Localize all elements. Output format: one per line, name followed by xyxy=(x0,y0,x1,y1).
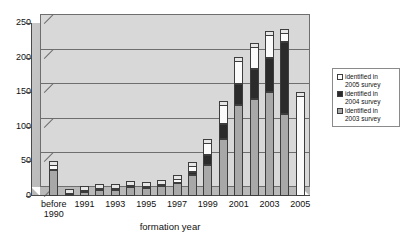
bar-segment xyxy=(280,33,289,42)
bar-column xyxy=(142,14,151,196)
bar-column xyxy=(250,14,259,196)
bar-segment xyxy=(203,165,212,196)
y-axis-tick-mark xyxy=(26,196,31,197)
bar-segment xyxy=(250,99,259,196)
x-axis-tick-label: 2005 xyxy=(280,199,320,209)
bar-segment xyxy=(219,139,228,196)
bar-top-face xyxy=(49,161,58,166)
bar-column xyxy=(80,14,89,196)
bar-segment xyxy=(188,172,197,175)
bar-segment xyxy=(157,186,166,196)
bar-column xyxy=(265,14,274,196)
bar-segment xyxy=(219,124,228,139)
y-axis-tick-mark xyxy=(26,92,31,93)
bar-segment xyxy=(250,69,259,99)
y-axis-tick-mark xyxy=(26,127,31,128)
legend-item-2005: identified in2005 survey xyxy=(337,73,396,88)
bar-segment xyxy=(188,166,197,173)
bar-column xyxy=(203,14,212,196)
bar-top-face xyxy=(203,139,212,144)
y-axis-tick-mark xyxy=(26,161,31,162)
bar-segment xyxy=(296,96,305,196)
bar-segment xyxy=(280,114,289,196)
bar-top-face xyxy=(126,181,135,186)
legend-item-2003: identified in2003 survey xyxy=(337,107,396,122)
bar-top-face xyxy=(173,175,182,180)
bar-top-face xyxy=(296,92,305,97)
bar-column xyxy=(234,14,243,196)
y-axis-tick-mark xyxy=(26,23,31,24)
stacked-column-chart: 050100150200250 before199019911993199519… xyxy=(0,0,407,250)
bar-segment xyxy=(265,58,274,93)
bar-segment xyxy=(203,155,212,165)
bar-segment xyxy=(280,42,289,115)
bar-segment xyxy=(173,183,182,196)
bar-segment xyxy=(142,188,151,196)
legend-label-2004: identified in2004 survey xyxy=(345,90,380,105)
bar-segment xyxy=(219,105,228,124)
bar-column xyxy=(111,14,120,196)
bar-segment xyxy=(265,92,274,196)
bar-top-face xyxy=(219,101,228,106)
chart-legend: identified in2005 survey identified in20… xyxy=(332,68,400,127)
legend-label-2005: identified in2005 survey xyxy=(345,73,380,88)
y-axis-tick-mark xyxy=(26,58,31,59)
bar-top-face xyxy=(111,184,120,189)
bar-top-face xyxy=(95,184,104,189)
bar-segment xyxy=(111,190,120,196)
bar-top-face xyxy=(142,182,151,187)
legend-swatch-2005-icon xyxy=(337,74,343,80)
bar-segment xyxy=(234,84,243,105)
bar-column xyxy=(49,14,58,196)
legend-swatch-2003-icon xyxy=(337,108,343,114)
bar-top-face xyxy=(265,31,274,36)
bar-segment xyxy=(80,192,89,196)
bar-segment xyxy=(234,105,243,196)
bar-segment xyxy=(265,35,274,58)
bar-column xyxy=(95,14,104,196)
legend-item-2004: identified in2004 survey xyxy=(337,90,396,105)
bar-segment xyxy=(250,47,259,69)
bar-top-face xyxy=(280,29,289,34)
bar-column xyxy=(173,14,182,196)
bar-column xyxy=(219,14,228,196)
bar-segment xyxy=(203,143,212,155)
bar-segment xyxy=(49,170,58,196)
bar-segment xyxy=(188,175,197,196)
bar-column xyxy=(126,14,135,196)
bar-column xyxy=(280,14,289,196)
bar-column xyxy=(296,14,305,196)
bar-top-face xyxy=(65,189,74,194)
bar-top-face xyxy=(157,180,166,185)
bar-top-face xyxy=(188,162,197,167)
legend-swatch-2004-icon xyxy=(337,91,343,97)
bar-column xyxy=(65,14,74,196)
bar-column xyxy=(157,14,166,196)
bar-top-face xyxy=(80,186,89,191)
bar-top-face xyxy=(234,57,243,62)
bar-segment xyxy=(234,61,243,84)
bar-top-face xyxy=(250,43,259,48)
legend-label-2003: identified in2003 survey xyxy=(345,107,380,122)
bar-segment xyxy=(126,187,135,196)
bar-column xyxy=(188,14,197,196)
bar-segment xyxy=(95,190,104,196)
x-axis-title: formation year xyxy=(0,221,340,232)
